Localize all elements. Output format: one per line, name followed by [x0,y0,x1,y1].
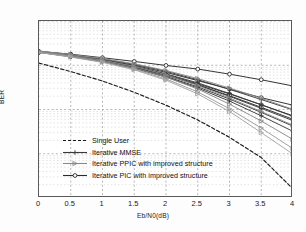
legend-symbol-triangle-icon [62,158,88,169]
legend-item[interactable]: Iterative PPIC with improved structure [62,158,213,170]
y-axis-label: BER [0,90,5,104]
legend-label: Iterative MMSE [92,147,141,159]
xtick-label: 2.5 [192,199,202,208]
xtick-label: 1.5 [128,199,138,208]
x-axis-label: Eb/N0(dB) [0,212,306,219]
legend-symbol-plus-icon [62,147,88,158]
legend-item[interactable]: Iterative PIC with improved structure [62,170,213,182]
legend-item[interactable]: Single User [62,135,213,147]
xtick-label: 3.5 [255,199,265,208]
legend-item[interactable]: Iterative MMSE [62,147,213,159]
xtick-label: 4 [290,199,294,208]
legend-symbol-none-icon [62,135,88,146]
xtick-label: 0.5 [65,199,75,208]
chart-legend[interactable]: Single UserIterative MMSEIterative PPIC … [62,135,213,181]
xtick-label: 1 [99,199,103,208]
legend-label: Single User [92,135,129,147]
xtick-label: 0 [36,199,40,208]
xtick-label: 3 [226,199,230,208]
figure: 100 10-1 10-2 10-3 10-4 BER 00.511.522.5… [0,0,306,232]
legend-label: Iterative PIC with improved structure [92,170,208,182]
legend-symbol-circle-icon [62,170,88,181]
xtick-label: 2 [163,199,167,208]
legend-label: Iterative PPIC with improved structure [92,158,213,170]
